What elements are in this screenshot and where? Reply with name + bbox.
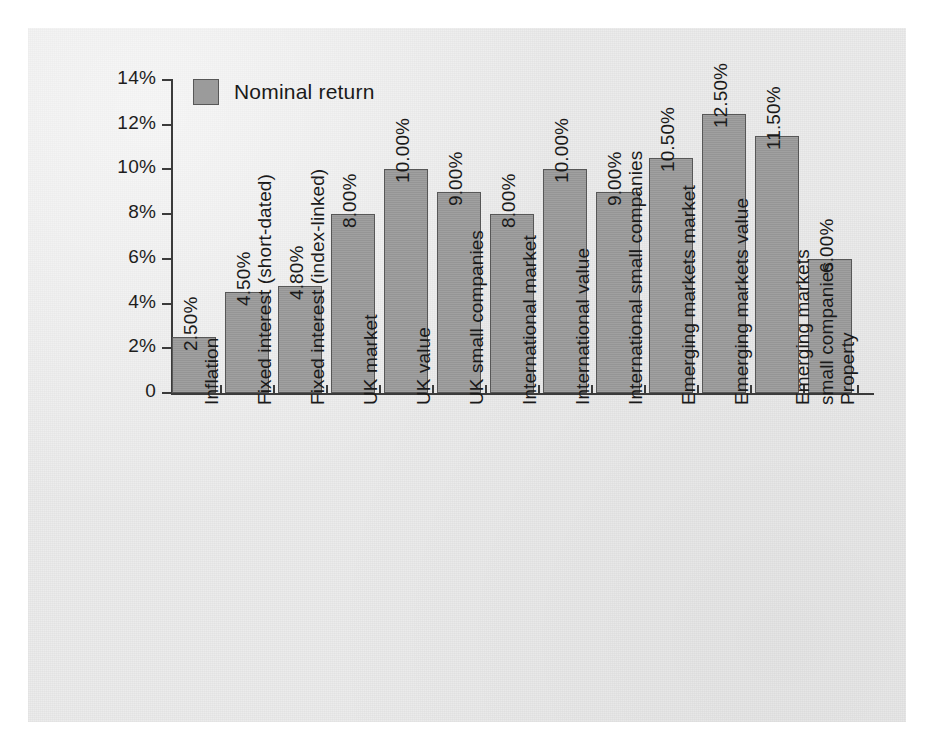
bar-value-label: 2.50%	[180, 297, 202, 351]
x-axis-category-label: UK small companies	[466, 230, 488, 405]
x-axis-category-label-line: Emerging markets market	[678, 185, 699, 405]
bar-value-label: 10.00%	[551, 118, 573, 183]
x-axis-category-label-line: International market	[519, 235, 540, 405]
x-axis-category-label: Inflation	[201, 338, 223, 405]
bar-value-label: 8.00%	[498, 174, 520, 228]
x-axis-category-label: Emerging marketssmall companies	[791, 249, 839, 405]
x-axis-category-label-line: small companies	[815, 249, 839, 405]
x-axis-category-label-line: International value	[572, 248, 593, 405]
x-axis-category-label: Fixed interest (index-linked)	[307, 169, 329, 405]
x-axis-category-label: Property	[837, 332, 859, 405]
bar-value-label: 10.50%	[657, 107, 679, 172]
x-axis-category-label: International value	[572, 248, 594, 405]
bar-value-label: 12.50%	[710, 62, 732, 127]
bar-value-label: 4.80%	[286, 245, 308, 299]
x-axis-category-label-line: Inflation	[201, 338, 222, 405]
x-axis-category-label: Emerging markets market	[678, 185, 700, 405]
x-axis-category-label: UK market	[360, 314, 382, 405]
bar-value-label: 9.00%	[445, 151, 467, 205]
legend-label: Nominal return	[234, 80, 375, 104]
x-axis-category-label-line: UK small companies	[466, 230, 487, 405]
x-axis-category-label: Fixed interest (short-dated)	[254, 174, 276, 405]
legend: Nominal return	[193, 79, 375, 105]
bar-chart: 02%4%6%8%10%12%14% 2.50%4.50%4.80%8.00%1…	[0, 0, 934, 746]
x-axis-category-label-line: UK value	[413, 327, 434, 405]
x-axis-category-label: Emerging markets value	[731, 198, 753, 405]
bar-value-label: 9.00%	[604, 151, 626, 205]
x-axis-category-label-line: Property	[837, 332, 858, 405]
x-axis-category-label-line: Fixed interest (short-dated)	[254, 174, 275, 405]
bar-value-label: 11.50%	[763, 86, 785, 150]
x-axis-category-label: UK value	[413, 327, 435, 405]
page: 02%4%6%8%10%12%14% 2.50%4.50%4.80%8.00%1…	[0, 0, 934, 746]
x-axis-category-label-line: UK market	[360, 314, 381, 405]
x-axis-category-label-line: Emerging markets	[792, 249, 813, 405]
legend-swatch-nominal-return	[193, 79, 219, 105]
bar-value-label: 10.00%	[392, 118, 414, 183]
bar-value-label: 4.50%	[233, 252, 255, 306]
x-axis-category-label: International market	[519, 235, 541, 405]
x-axis-category-label: International small companies	[625, 151, 647, 405]
x-axis-category-label-line: Fixed interest (index-linked)	[307, 169, 328, 405]
x-axis-category-label-line: Emerging markets value	[731, 198, 752, 405]
bar-value-label: 8.00%	[339, 174, 361, 228]
x-axis-category-label-line: International small companies	[625, 151, 646, 405]
